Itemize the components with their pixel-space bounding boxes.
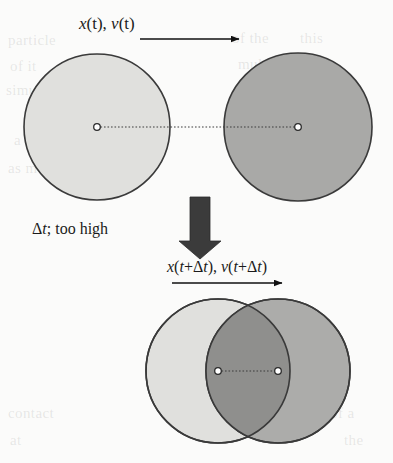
label-v-arg: (t) — [119, 14, 135, 33]
label-position-velocity-t: x(t), v(t) — [79, 14, 135, 34]
arrow-down-block-icon — [179, 197, 221, 259]
bottom-row-group — [146, 299, 350, 443]
center-dot-icon — [215, 368, 222, 375]
label-plus-delta: +Δ — [184, 258, 203, 275]
label-plus-delta: +Δ — [238, 258, 257, 275]
center-dot-icon — [295, 124, 302, 131]
label-paren-close: ) — [262, 258, 267, 275]
top-row-group — [24, 53, 372, 201]
label-x-arg: (t), — [87, 14, 107, 33]
label-position-velocity-t-plus-dt: x(t+Δt), v(t+Δt) — [167, 258, 267, 276]
label-v-symbol: v — [111, 14, 119, 33]
label-timestep-too-high: Δt; too high — [32, 220, 108, 238]
center-dot-icon — [275, 368, 282, 375]
label-delta-symbol: Δ — [32, 220, 42, 237]
label-too-high-text: ; too high — [47, 220, 108, 237]
label-x-symbol: x — [79, 14, 87, 33]
label-paren-close: ), — [208, 258, 217, 275]
center-dot-icon — [94, 124, 101, 131]
figure-container: particleof thethisof itmultiplesimulatio… — [0, 0, 393, 463]
